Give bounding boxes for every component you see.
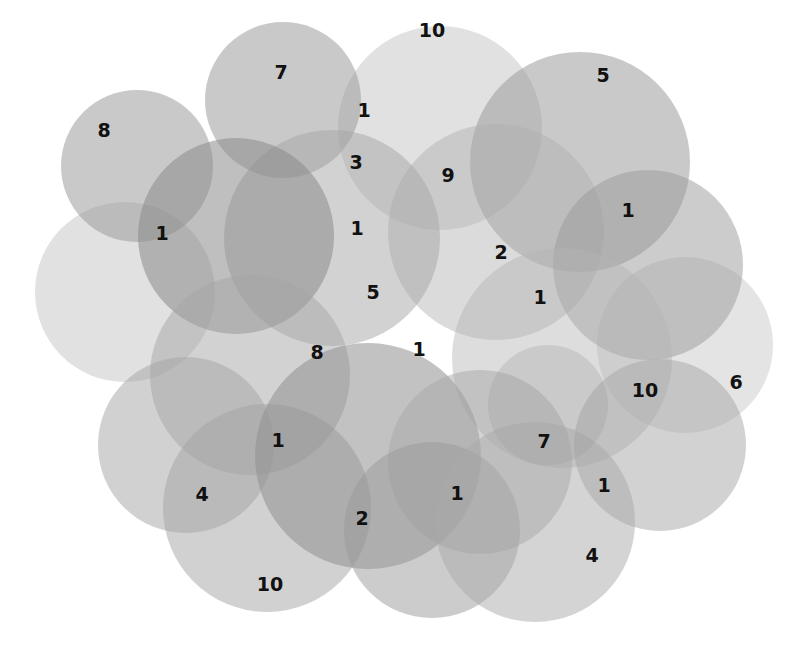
region-count-label: 10 (632, 379, 658, 401)
overlapping-circles-diagram: 1075813911125181106174112410 (0, 0, 800, 652)
region-count-label: 9 (441, 164, 454, 186)
region-count-label: 1 (357, 99, 370, 121)
region-count-label: 2 (494, 241, 507, 263)
region-count-label: 1 (155, 222, 168, 244)
region-count-label: 2 (355, 507, 368, 529)
region-count-label: 8 (310, 341, 323, 363)
region-count-label: 1 (621, 199, 634, 221)
region-count-label: 1 (597, 474, 610, 496)
region-count-label: 10 (257, 573, 283, 595)
region-count-label: 4 (195, 483, 208, 505)
region-count-label: 1 (533, 286, 546, 308)
region-count-label: 1 (412, 338, 425, 360)
region-count-label: 10 (419, 19, 445, 41)
region-count-label: 8 (97, 119, 110, 141)
region-count-label: 1 (271, 429, 284, 451)
region-count-label: 6 (729, 371, 742, 393)
region-count-label: 5 (366, 281, 379, 303)
region-count-label: 5 (596, 64, 609, 86)
region-count-label: 4 (585, 544, 598, 566)
region-count-label: 3 (349, 151, 362, 173)
region-count-label: 7 (274, 61, 287, 83)
region-count-label: 1 (450, 482, 463, 504)
region-count-label: 1 (350, 217, 363, 239)
circles-layer (35, 22, 773, 622)
region-count-label: 7 (537, 430, 550, 452)
